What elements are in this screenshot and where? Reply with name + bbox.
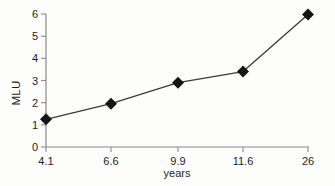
x-tick-label-0: 4.1 [38,156,53,167]
x-tick-label-4: 26 [302,156,314,167]
y-axis-ticks [41,14,46,147]
x-tick-label-1: 6.6 [103,156,118,167]
data-point-marker [105,98,117,110]
y-axis-title: MLU [10,81,22,106]
y-tick-label-5: 5 [20,31,38,42]
x-axis-ticks [46,147,308,152]
y-tick-label-1: 1 [20,119,38,130]
y-tick-label-6: 6 [20,9,38,20]
data-markers [40,9,314,126]
line-chart: 0 1 2 3 4 5 6 4.1 6.6 9.9 11.6 26 MLU ye… [0,0,335,186]
y-tick-label-3: 3 [20,75,38,86]
x-tick-label-3: 11.6 [233,156,254,167]
y-tick-label-2: 2 [20,97,38,108]
data-point-marker [172,77,184,89]
data-point-marker [40,113,52,125]
data-line-series-mlu [46,15,308,120]
y-tick-label-4: 4 [20,53,38,64]
y-tick-label-0: 0 [20,142,38,153]
x-tick-label-2: 9.9 [170,156,185,167]
x-axis-title: years [164,167,191,179]
